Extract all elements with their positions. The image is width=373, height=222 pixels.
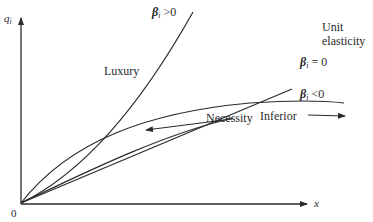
- unit-elasticity-line: [21, 89, 292, 203]
- luxury-condition-label: βi >0: [151, 5, 176, 20]
- luxury-curve: [21, 12, 193, 203]
- origin-label: 0: [11, 207, 17, 219]
- inferior-arrow: [308, 115, 345, 116]
- unit-elasticity-condition-label: βi = 0: [299, 55, 327, 70]
- engel-curves-diagram: qi x 0 βi >0 Luxury Unit elasticity βi =…: [0, 0, 373, 222]
- luxury-label: Luxury: [104, 64, 139, 78]
- inferior-label: Inferior: [260, 109, 297, 123]
- y-axis-label: qi: [4, 12, 12, 26]
- inferior-condition-label: βi <0: [299, 87, 324, 102]
- x-axis-label: x: [313, 197, 319, 209]
- unit-elasticity-label-line2: elasticity: [322, 34, 365, 48]
- unit-elasticity-label-line1: Unit: [322, 20, 344, 34]
- necessity-label: Necessity: [206, 111, 253, 125]
